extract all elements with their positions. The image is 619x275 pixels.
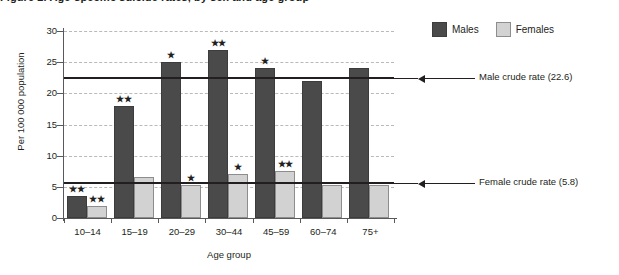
y-tick-15 xyxy=(57,125,63,126)
legend-swatch-females-icon xyxy=(496,22,511,37)
y-tick-label-0: 0 xyxy=(33,213,57,222)
significance-marker-males-2: ★ xyxy=(167,51,175,59)
y-tick-25 xyxy=(57,62,63,63)
significance-marker-males-0: ★★ xyxy=(69,185,84,193)
x-axis-title: Age group xyxy=(64,249,394,260)
y-tick-30 xyxy=(57,31,63,32)
gridline-25 xyxy=(64,62,394,63)
y-tick-0 xyxy=(57,218,63,219)
legend-label-females: Females xyxy=(516,24,554,35)
y-tick-label-10: 10 xyxy=(33,151,57,160)
y-tick-label-30: 30 xyxy=(33,26,57,35)
significance-marker-females-3: ★ xyxy=(234,163,242,171)
bar-males-2[interactable]: ★ xyxy=(161,62,181,218)
male-crude-rate-label: Male crude rate (22.6) xyxy=(479,72,572,82)
bar-males-3[interactable]: ★★ xyxy=(208,50,228,218)
y-tick-label-25: 25 xyxy=(33,57,57,66)
significance-marker-females-4: ★★ xyxy=(278,160,293,168)
figure-title: Figure 2. Age-specific suicide rates, by… xyxy=(0,0,460,3)
x-tick-4 xyxy=(253,218,254,223)
y-axis-title: Per 100 000 population xyxy=(15,22,26,182)
bar-females-4[interactable]: ★★ xyxy=(275,171,295,218)
significance-marker-males-4: ★ xyxy=(261,57,269,65)
y-tick-label-20: 20 xyxy=(33,88,57,97)
y-tick-5 xyxy=(57,187,63,188)
legend-label-males: Males xyxy=(452,24,479,35)
x-tick-6 xyxy=(347,218,348,223)
legend-swatch-males-icon xyxy=(432,22,447,37)
legend-item-males[interactable]: Males xyxy=(432,22,479,37)
bar-females-2[interactable]: ★ xyxy=(181,185,201,218)
bar-males-0[interactable]: ★★ xyxy=(67,196,87,218)
bar-males-5[interactable] xyxy=(302,81,322,218)
reference-connector-male xyxy=(425,78,475,79)
gridline-20 xyxy=(64,93,394,94)
y-tick-label-5: 5 xyxy=(33,182,57,191)
bar-males-6[interactable] xyxy=(349,68,369,218)
y-tick-10 xyxy=(57,156,63,157)
female-crude-rate-arrow-icon xyxy=(418,180,425,188)
female-crude-rate-label: Female crude rate (5.8) xyxy=(479,177,578,187)
legend: Males Females xyxy=(432,22,554,37)
reference-leader-male xyxy=(394,78,418,79)
legend-item-females[interactable]: Females xyxy=(496,22,554,37)
x-tick-5 xyxy=(300,218,301,223)
significance-marker-males-3: ★★ xyxy=(211,39,226,47)
plot-area: ★★★★★★★★★★★★★★ xyxy=(64,31,394,218)
figure-container: Figure 2. Age-specific suicide rates, by… xyxy=(0,0,619,275)
male-crude-rate-arrow-icon xyxy=(418,75,425,83)
y-tick-20 xyxy=(57,93,63,94)
y-tick-label-15: 15 xyxy=(33,120,57,129)
x-category-label-6: 75+ xyxy=(340,226,400,237)
bar-females-6[interactable] xyxy=(369,185,389,218)
reference-line-female xyxy=(64,182,394,184)
x-tick-2 xyxy=(158,218,159,223)
x-tick-end xyxy=(394,218,395,223)
reference-connector-female xyxy=(425,183,475,184)
significance-marker-males-1: ★★ xyxy=(116,95,131,103)
significance-marker-females-0: ★★ xyxy=(89,195,104,203)
x-tick-0 xyxy=(64,218,65,223)
gridline-30 xyxy=(64,31,394,32)
bar-males-4[interactable]: ★ xyxy=(255,68,275,218)
bar-females-0[interactable]: ★★ xyxy=(87,206,107,218)
reference-leader-female xyxy=(394,183,418,184)
x-tick-3 xyxy=(205,218,206,223)
significance-marker-females-2: ★ xyxy=(187,174,195,182)
bar-males-1[interactable]: ★★ xyxy=(114,106,134,218)
reference-line-male xyxy=(64,77,394,79)
bar-females-5[interactable] xyxy=(322,185,342,218)
x-tick-1 xyxy=(111,218,112,223)
